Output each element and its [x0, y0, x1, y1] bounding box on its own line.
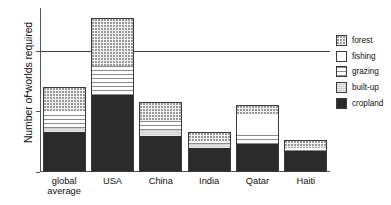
bar-global-average[interactable]: [43, 87, 86, 172]
bar-segment-built-up: [139, 130, 182, 136]
legend-swatch-grazing: [336, 66, 347, 77]
bar-segment-grazing: [91, 66, 134, 95]
bar-segment-grazing: [236, 133, 279, 144]
bar-segment-fishing: [43, 111, 86, 113]
bar-segment-built-up: [43, 128, 86, 132]
x-axis-label-china: China: [137, 176, 185, 186]
bar-segment-cropland: [91, 95, 134, 172]
legend-item-cropland[interactable]: cropland: [336, 95, 391, 111]
legend-items: forestfishinggrazingbuilt-upcropland: [336, 33, 391, 111]
bar-segment-forest: [91, 18, 134, 67]
bar-segment-forest: [188, 132, 231, 142]
bar-segment-forest: [43, 87, 86, 111]
bar-segment-grazing: [43, 114, 86, 129]
legend-swatch-forest: [336, 35, 347, 46]
y-tick-mark: 0.5: [36, 111, 40, 112]
x-axis-label-line1: China: [137, 176, 185, 186]
legend-item-built-up[interactable]: built-up: [336, 80, 391, 96]
legend-label-fishing: fishing: [352, 52, 376, 61]
bar-china[interactable]: [139, 102, 182, 172]
x-axis-label-usa: USA: [88, 176, 136, 186]
x-axis-label-line1: India: [185, 176, 233, 186]
y-tick-label: 1: [25, 88, 30, 99]
bar-haiti[interactable]: [284, 140, 327, 172]
x-axis-label-haiti: Haiti: [282, 176, 330, 186]
ecological-footprint-chart: Number of worlds required 00.51 globalav…: [0, 0, 391, 205]
bar-segment-grazing: [188, 142, 231, 144]
bar-india[interactable]: [188, 132, 231, 172]
bar-segment-cropland: [139, 136, 182, 172]
y-axis-line: [40, 8, 41, 172]
bar-usa[interactable]: [91, 18, 134, 172]
y-tick-mark: 1: [36, 51, 40, 52]
legend-swatch-built-up: [336, 82, 347, 93]
x-axis-label-line1: Qatar: [233, 176, 281, 186]
plot-area: 00.51: [40, 8, 330, 172]
legend-item-grazing[interactable]: grazing: [336, 64, 391, 80]
legend-label-forest: forest: [352, 36, 372, 45]
y-axis-title: Number of worlds required: [23, 8, 34, 158]
bar-segment-forest: [284, 140, 327, 147]
x-axis-label-global-average: globalaverage: [40, 176, 88, 196]
x-axis-label-line1: Haiti: [282, 176, 330, 186]
bar-segment-cropland: [236, 144, 279, 172]
legend-item-fishing[interactable]: fishing: [336, 49, 391, 65]
bar-segment-built-up: [188, 144, 231, 148]
x-axis-label-qatar: Qatar: [233, 176, 281, 186]
bar-segment-forest: [236, 105, 279, 114]
bar-segment-fishing: [236, 114, 279, 133]
legend: forestfishinggrazingbuilt-upcropland: [336, 33, 391, 111]
bar-segment-grazing: [139, 121, 182, 130]
bar-segment-grazing: [284, 148, 327, 152]
legend-label-cropland: cropland: [352, 99, 383, 108]
reference-line-one-world: [40, 51, 330, 53]
x-axis-label-line1: global: [40, 176, 88, 186]
legend-swatch-cropland: [336, 98, 347, 109]
bar-segment-forest: [139, 102, 182, 121]
legend-label-built-up: built-up: [352, 83, 379, 92]
legend-swatch-fishing: [336, 51, 347, 62]
bar-qatar[interactable]: [236, 105, 279, 172]
bar-segment-cropland: [188, 148, 231, 172]
legend-label-grazing: grazing: [352, 67, 379, 76]
x-axis-label-india: India: [185, 176, 233, 186]
bar-segment-cropland: [284, 151, 327, 172]
x-axis-label-line2: average: [40, 186, 88, 196]
x-axis-label-line1: USA: [88, 176, 136, 186]
y-tick-mark: 0: [36, 172, 40, 173]
bar-segment-cropland: [43, 132, 86, 172]
legend-item-forest[interactable]: forest: [336, 33, 391, 49]
